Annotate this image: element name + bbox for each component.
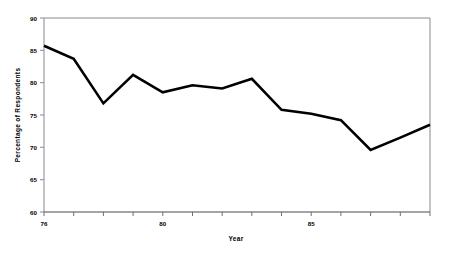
y-axis-title: Percentage of Respondents — [14, 68, 22, 163]
x-axis-tick-labels: 76 80 85 — [41, 220, 316, 227]
x-tick-label-80: 80 — [159, 220, 166, 227]
x-axis-ticks — [44, 212, 430, 216]
y-tick-label-80: 80 — [30, 79, 37, 86]
y-axis-tick-labels: 90 85 80 75 70 65 60 — [30, 15, 37, 216]
y-tick-label-70: 70 — [30, 144, 37, 151]
x-tick-label-85: 85 — [308, 220, 315, 227]
plot-frame — [44, 18, 430, 212]
chart-canvas: 90 85 80 75 70 65 60 76 — [0, 0, 452, 253]
line-chart: 90 85 80 75 70 65 60 76 — [0, 0, 452, 253]
y-tick-label-60: 60 — [30, 209, 37, 216]
x-tick-label-76: 76 — [41, 220, 48, 227]
y-tick-label-65: 65 — [30, 176, 37, 183]
y-axis-ticks — [40, 18, 44, 212]
x-axis-title: Year — [228, 235, 243, 242]
y-tick-label-85: 85 — [30, 47, 37, 54]
y-tick-label-75: 75 — [30, 112, 37, 119]
y-tick-label-90: 90 — [30, 15, 37, 22]
data-series-line — [44, 46, 430, 150]
